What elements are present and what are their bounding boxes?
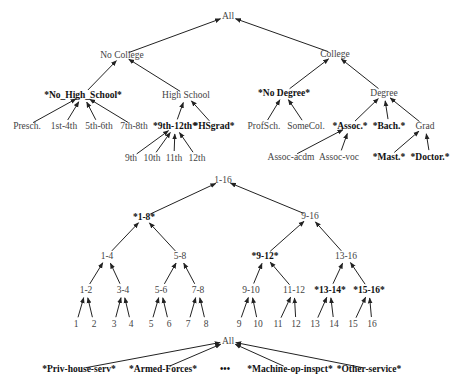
edge-9th12th-to-hs bbox=[177, 103, 183, 120]
node-occupation-ellipsis: ••• bbox=[220, 364, 230, 375]
node-education-somecol: SomeCol. bbox=[287, 121, 325, 132]
node-education-profsch: ProfSch. bbox=[248, 121, 281, 132]
edge-nocollege-to-all bbox=[129, 19, 221, 53]
edge-n13-to-r13_14 bbox=[318, 297, 327, 317]
edge-n2-to-r1_2 bbox=[88, 298, 93, 317]
node-numeric-r9_10: 9-10 bbox=[242, 285, 259, 296]
node-numeric-n5: 5 bbox=[149, 319, 154, 330]
edge-n7-to-r7_8 bbox=[190, 298, 196, 318]
edge-assocacdm-to-assoc bbox=[297, 130, 343, 154]
edge-bach-to-degree bbox=[385, 101, 388, 119]
edge-12th-to-9th12th bbox=[180, 133, 194, 153]
node-numeric-r9_12: *9-12* bbox=[252, 251, 279, 262]
node-occupation-armed: *Armed-Forces* bbox=[129, 364, 197, 375]
node-education-1st4th: 1st-4th bbox=[51, 121, 77, 132]
edge-n11-to-r11_12 bbox=[281, 297, 291, 318]
node-education-5th6th: 5th-6th bbox=[85, 121, 112, 132]
node-numeric-r1_2: 1-2 bbox=[80, 285, 93, 296]
node-education-degree: Degree bbox=[370, 88, 397, 99]
node-numeric-n15: 15 bbox=[348, 319, 358, 330]
node-education-nohs: *No_High_School* bbox=[44, 90, 122, 101]
node-education-presch: Presch. bbox=[13, 121, 41, 132]
node-numeric-n3: 3 bbox=[112, 319, 117, 330]
node-numeric-r1_8: *1-8* bbox=[133, 212, 155, 223]
edge-assocvoc-to-assoc bbox=[341, 134, 347, 151]
edge-n4-to-r3_4 bbox=[125, 298, 130, 317]
node-numeric-r13_14: *13-14* bbox=[314, 285, 346, 296]
node-numeric-r3_4: 3-4 bbox=[117, 285, 130, 296]
edge-profsch-to-nodeg bbox=[268, 100, 280, 120]
edge-r5_8-to-r1_8 bbox=[149, 223, 175, 251]
node-education-hsgrad: *HSgrad* bbox=[193, 121, 234, 132]
edge-r3_4-to-r1_4 bbox=[110, 263, 120, 284]
edge-r9_12-to-r9_16 bbox=[270, 221, 304, 251]
edge-nodeg-to-college bbox=[290, 59, 329, 89]
edge-r1_4-to-r1_8 bbox=[112, 223, 139, 251]
edge-assoc-to-degree bbox=[355, 99, 378, 122]
node-education-hs: High School bbox=[162, 90, 210, 101]
node-numeric-n2: 2 bbox=[92, 319, 97, 330]
edge-presch-to-nohs bbox=[33, 99, 76, 123]
edge-r1_8-to-r1_16 bbox=[150, 183, 216, 214]
edge-n6-to-r5_6 bbox=[163, 298, 168, 317]
edge-n9-to-r9_10 bbox=[241, 298, 248, 318]
node-education-9th12th: *9th-12th* bbox=[153, 121, 197, 132]
edge-doctor-to-grad bbox=[426, 134, 429, 150]
node-numeric-n14: 14 bbox=[329, 319, 339, 330]
node-education-12th: 12th bbox=[189, 153, 206, 164]
node-numeric-r13_16: 13-16 bbox=[335, 251, 357, 262]
edge-11th-to-9th12th bbox=[174, 134, 175, 151]
node-numeric-r15_16: *15-16* bbox=[353, 285, 385, 296]
edge-r5_6-to-r5_8 bbox=[164, 263, 176, 284]
edge-degree-to-college bbox=[341, 59, 378, 89]
node-occupation-other: *Other-service* bbox=[337, 364, 402, 375]
edge-5th6th-to-nohs bbox=[87, 102, 96, 120]
edge-n1-to-r1_2 bbox=[78, 298, 84, 318]
node-numeric-n6: 6 bbox=[167, 319, 172, 330]
node-numeric-n9: 9 bbox=[237, 319, 242, 330]
edge-n3-to-r3_4 bbox=[116, 298, 121, 318]
node-numeric-r7_8: 7-8 bbox=[192, 285, 205, 296]
node-education-assoc: *Assoc.* bbox=[332, 121, 367, 132]
edge-n16-to-r15_16 bbox=[370, 298, 372, 317]
edge-1st4th-to-nohs bbox=[68, 102, 79, 120]
node-education-all: All bbox=[222, 11, 234, 22]
node-numeric-r5_8: 5-8 bbox=[174, 251, 187, 262]
node-education-doctor: *Doctor.* bbox=[411, 152, 450, 163]
node-numeric-n12: 12 bbox=[291, 319, 301, 330]
node-education-10th: 10th bbox=[144, 153, 161, 164]
edge-college-to-all bbox=[236, 19, 329, 52]
node-numeric-n4: 4 bbox=[129, 319, 134, 330]
node-education-grad: Grad bbox=[416, 121, 435, 132]
edge-r13_16-to-r9_16 bbox=[315, 222, 341, 251]
edge-n8-to-r7_8 bbox=[200, 298, 205, 317]
node-numeric-n13: 13 bbox=[310, 319, 320, 330]
node-numeric-n7: 7 bbox=[186, 319, 191, 330]
edge-r9_10-to-r9_12 bbox=[254, 263, 262, 283]
edge-r11_12-to-r9_12 bbox=[270, 262, 289, 285]
edge-r15_16-to-r13_16 bbox=[351, 263, 366, 285]
generalization-hierarchy-figure: AllNo CollegeCollege*No_High_School*High… bbox=[0, 0, 450, 384]
node-education-college: College bbox=[320, 49, 350, 60]
node-numeric-n16: 16 bbox=[367, 319, 377, 330]
node-numeric-n11: 11 bbox=[273, 319, 282, 330]
node-education-mast: *Mast.* bbox=[373, 152, 405, 163]
node-education-nocollege: No College bbox=[100, 50, 144, 61]
node-numeric-r9_16: 9-16 bbox=[301, 211, 318, 222]
node-occupation-privhouse: *Priv-house-serv* bbox=[42, 364, 115, 375]
node-education-9th: 9th bbox=[125, 153, 137, 164]
edge-n15-to-r15_16 bbox=[356, 297, 366, 318]
edge-10th-to-9th12th bbox=[156, 133, 170, 153]
node-occupation-occ_all: All bbox=[222, 336, 234, 347]
node-numeric-n1: 1 bbox=[74, 319, 79, 330]
node-education-assocvoc: Assoc-voc bbox=[319, 152, 359, 163]
node-numeric-r11_12: 11-12 bbox=[283, 285, 305, 296]
node-numeric-r1_4: 1-4 bbox=[101, 251, 114, 262]
node-numeric-n10: 10 bbox=[253, 319, 263, 330]
edge-n12-to-r11_12 bbox=[295, 298, 296, 317]
node-numeric-r1_16: 1-16 bbox=[214, 175, 231, 186]
edge-mast-to-grad bbox=[394, 131, 419, 152]
edge-n5-to-r5_6 bbox=[153, 298, 159, 318]
edge-n10-to-r9_10 bbox=[253, 298, 257, 317]
node-occupation-machine: *Machine-op-inspct* bbox=[247, 364, 333, 375]
